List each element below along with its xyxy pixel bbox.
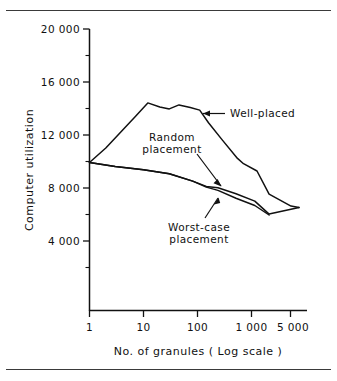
y-tick-label-8000: 8 000 bbox=[48, 182, 80, 194]
y-axis-title: Computer utilization bbox=[23, 109, 36, 231]
y-tick-label-20000: 20 000 bbox=[41, 23, 80, 35]
annotation-label-worst-line2: placement bbox=[169, 233, 228, 245]
x-tick-label-5000: 5 000 bbox=[277, 321, 309, 333]
y-tick-label-4000: 4 000 bbox=[48, 235, 80, 247]
y-axis bbox=[83, 29, 90, 311]
annotation-label-worst-line1: Worst-case bbox=[168, 221, 230, 233]
annotation-label-random-line2: placement bbox=[142, 143, 201, 155]
x-tick-label-1: 1 bbox=[86, 321, 93, 333]
y-tick-label-16000: 16 000 bbox=[41, 76, 80, 88]
series-line-worst-case-placement bbox=[90, 163, 270, 216]
line-chart: 20 000 16 000 12 000 8 000 4 000 1 10 10… bbox=[0, 0, 337, 381]
annotation-worst-case-placement: Worst-case placement bbox=[168, 198, 230, 246]
annotation-label-well-placed: Well-placed bbox=[230, 107, 295, 119]
x-tick-label-10: 10 bbox=[136, 321, 150, 333]
random-placement-arrowhead-icon bbox=[214, 179, 222, 187]
worst-case-leader-line bbox=[205, 198, 218, 218]
x-axis bbox=[90, 311, 308, 318]
annotation-label-random-line1: Random bbox=[149, 131, 195, 143]
series-line-random-placement bbox=[90, 163, 300, 215]
x-axis-title: No. of granules ( Log scale ) bbox=[114, 345, 283, 358]
annotation-well-placed: Well-placed bbox=[203, 107, 295, 119]
x-tick-label-100: 100 bbox=[187, 321, 208, 333]
top-divider-rule bbox=[6, 10, 331, 11]
x-tick-label-1000: 1 000 bbox=[235, 321, 267, 333]
bottom-divider-rule bbox=[6, 369, 331, 370]
figure-container: 20 000 16 000 12 000 8 000 4 000 1 10 10… bbox=[0, 0, 337, 381]
y-tick-label-12000: 12 000 bbox=[41, 129, 80, 141]
